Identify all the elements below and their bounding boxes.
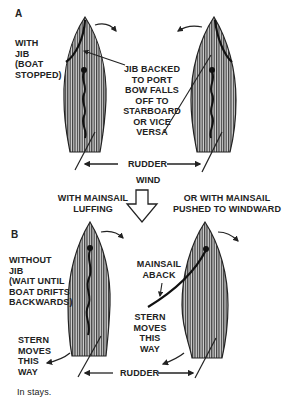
boat-a-left [64,17,116,170]
wind-label: WIND [136,175,160,186]
stern-moves-right-label: STERN MOVES THIS WAY [128,312,172,354]
panel-b-rudder-label: RUDDER [120,368,159,379]
mainsail-windward-caption: OR WITH MAINSAIL PUSHED TO WINDWARD [172,193,282,214]
stern-move-arrow [163,353,184,364]
panel-b-side-label: WITHOUT JIB (WAIT UNTIL BOAT DRIFTS BACK… [9,255,73,308]
panel-a-callout: JIB BACKED TO PORT BOW FALLS OFF TO STAR… [122,64,182,138]
panel-a-rudder-label: RUDDER [128,159,167,170]
panel-a-letter: A [15,9,22,20]
boat-b-right [148,222,238,378]
bow-turn-arrow [178,26,202,31]
panel-b-letter: B [11,230,18,241]
mainsail-aback-label: MAINSAIL ABACK [134,259,184,280]
bow-turn-arrow [218,232,238,241]
figure-caption: In stays. [17,387,51,398]
panel-a-side-label: WITH JIB (BOAT STOPPED) [15,38,62,80]
stern-moves-left-label: STERN MOVES THIS WAY [18,335,51,377]
hull [191,17,236,152]
bow-turn-arrow [95,24,116,31]
hull [68,222,110,356]
bow-turn-arrow [101,231,123,238]
mainsail-luffing-caption: WITH MAINSAIL LUFFING [48,193,138,214]
mainsail-aback-leader [160,283,162,296]
hull [182,222,228,358]
